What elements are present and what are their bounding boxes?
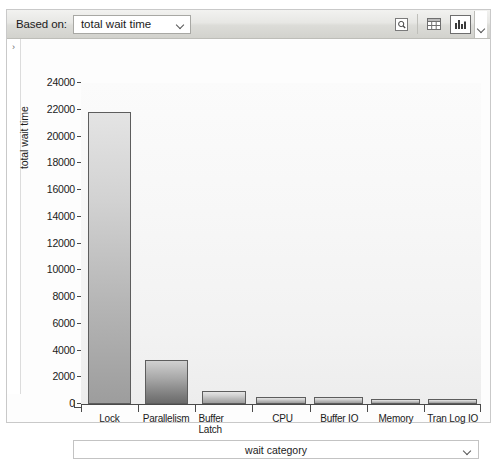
y-axis-tick-label: 8000 <box>52 290 75 302</box>
bar-buffer-latch[interactable] <box>202 391 245 404</box>
based-on-label: Based on: <box>16 18 67 30</box>
grid-view-icon <box>427 18 441 30</box>
y-axis-tick-label: 6000 <box>52 317 75 329</box>
bar-cpu[interactable] <box>256 397 305 404</box>
toolbar-overflow-button[interactable] <box>474 11 487 38</box>
bar-series <box>81 83 481 404</box>
plot-wrapper: 0200040006000800010000120001400016000180… <box>37 39 488 422</box>
x-axis-tick <box>138 405 195 412</box>
y-axis-title: total wait time <box>18 49 30 169</box>
magnifier-icon <box>395 18 408 31</box>
chart-area: › total wait time 0200040006000800010000… <box>7 39 490 422</box>
x-axis-tick <box>367 405 424 412</box>
x-axis-tick <box>195 405 252 412</box>
x-axis-tick <box>424 405 481 412</box>
chart-toolbar: Based on: total wait time <box>7 10 490 39</box>
x-axis-title-dropdown[interactable]: wait category <box>73 440 479 459</box>
bar-slot <box>195 83 252 404</box>
y-axis-tick-label: 2000 <box>52 370 75 382</box>
bar-slot <box>424 83 481 404</box>
bar-slot <box>81 83 138 404</box>
plot-area <box>81 83 481 404</box>
toolbar-button-group <box>388 10 490 38</box>
basis-dropdown[interactable]: total wait time <box>73 15 191 34</box>
y-axis-tick-label: 10000 <box>47 263 75 275</box>
x-axis-tick <box>252 405 309 412</box>
bar-slot <box>310 83 367 404</box>
bar-chart-icon <box>454 18 467 30</box>
y-axis-tick-label: 4000 <box>52 344 75 356</box>
x-axis-label: BufferLatch <box>194 413 254 435</box>
y-axis: 0200040006000800010000120001400016000180… <box>37 83 81 404</box>
x-axis-label: Memory <box>368 413 425 435</box>
chevron-down-icon <box>463 446 472 455</box>
toolbar-separator <box>417 14 418 34</box>
x-axis-label: Lock <box>81 413 138 435</box>
x-axis-ticks <box>81 405 481 412</box>
x-axis-title: wait category <box>245 444 307 456</box>
x-axis-labels: LockParallelismBufferLatchCPUBuffer IOMe… <box>81 413 481 435</box>
x-axis-label: Buffer IO <box>311 413 368 435</box>
chart-panel: Based on: total wait time <box>6 9 491 423</box>
bar-lock[interactable] <box>88 112 131 404</box>
bar-buffer-io[interactable] <box>314 397 363 404</box>
magnifier-button[interactable] <box>391 15 412 34</box>
bar-chart-button[interactable] <box>450 15 471 34</box>
x-axis-label: CPU <box>254 413 311 435</box>
y-axis-tick-label: 14000 <box>47 210 75 222</box>
y-axis-tick-label: 20000 <box>47 130 75 142</box>
x-axis-label: Tran Log IO <box>424 413 481 435</box>
y-axis-tick-label: 12000 <box>47 237 75 249</box>
basis-dropdown-value: total wait time <box>81 18 168 30</box>
y-axis-tick-label: 16000 <box>47 183 75 195</box>
bar-slot <box>367 83 424 404</box>
grid-view-button[interactable] <box>423 15 444 34</box>
chevron-down-icon <box>477 24 486 33</box>
y-axis-tick-label: 18000 <box>47 156 75 168</box>
bar-slot <box>138 83 195 404</box>
x-axis-tick <box>81 405 138 412</box>
chevron-down-icon <box>176 20 185 29</box>
x-axis-label: Parallelism <box>138 413 195 435</box>
y-axis-tick-label: 22000 <box>47 103 75 115</box>
bar-parallelism[interactable] <box>145 360 188 404</box>
x-axis-tick <box>310 405 367 412</box>
y-axis-tick-label: 24000 <box>47 76 75 88</box>
bar-slot <box>252 83 309 404</box>
